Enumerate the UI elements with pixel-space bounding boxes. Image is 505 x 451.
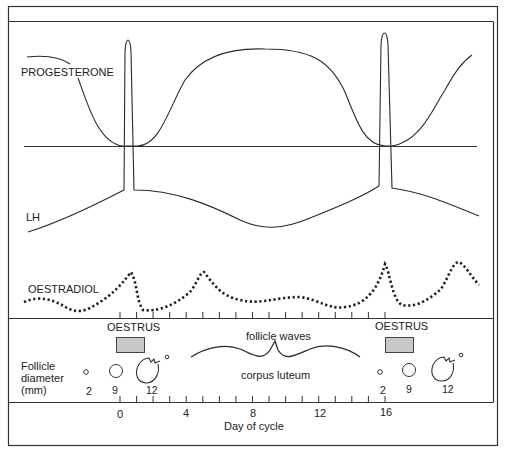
oestrus-box-left xyxy=(117,338,145,353)
follicle-label-line-1: Follicle xyxy=(21,360,55,372)
progesterone-label: PROGESTERONE xyxy=(21,66,114,78)
oocyte-right xyxy=(459,353,463,357)
top-axis-ticks xyxy=(120,312,385,318)
lh-curve xyxy=(28,33,479,232)
brace-top-label: follicle waves xyxy=(246,330,311,342)
follicle-9mm-left xyxy=(110,365,123,378)
progesterone-curve xyxy=(27,49,472,146)
follicle-2mm-left xyxy=(84,370,89,375)
bottom-axis-ticks xyxy=(120,396,385,402)
follicle-size-2-left: 2 xyxy=(86,385,92,397)
follicle-label-line-2: diameter xyxy=(21,372,64,384)
oestrus-box-right xyxy=(386,338,414,353)
follicle-waves-brace xyxy=(191,341,360,357)
oocyte-left xyxy=(165,355,169,359)
x-tick-label-12: 12 xyxy=(314,407,326,419)
x-axis-title: Day of cycle xyxy=(224,420,284,432)
follicle-size-12-left: 12 xyxy=(146,384,158,396)
x-tick-label-4: 4 xyxy=(183,407,189,419)
oestradiol-label: OESTRADIOL xyxy=(28,283,99,295)
oestrus-label-right: OESTRUS xyxy=(375,320,428,332)
x-tick-label-16: 16 xyxy=(380,406,392,418)
follicle-size-2-right: 2 xyxy=(380,384,386,396)
follicle-12mm-ovulating-right xyxy=(432,357,455,381)
follicle-2mm-right xyxy=(378,370,383,375)
follicle-size-12-right: 12 xyxy=(442,383,454,395)
brace-bottom-label: corpus luteum xyxy=(241,369,310,381)
follicle-size-9-left: 9 xyxy=(112,384,118,396)
follicle-9mm-right xyxy=(403,364,416,377)
oestrus-label-left: OESTRUS xyxy=(107,321,160,333)
x-tick-label-0: 0 xyxy=(117,408,123,420)
follicle-12mm-ovulating-left xyxy=(136,358,160,383)
follicle-label-line-3: (mm) xyxy=(21,384,47,396)
follicle-size-9-right: 9 xyxy=(406,383,412,395)
lh-label: LH xyxy=(26,211,40,223)
x-tick-label-8: 8 xyxy=(250,407,256,419)
